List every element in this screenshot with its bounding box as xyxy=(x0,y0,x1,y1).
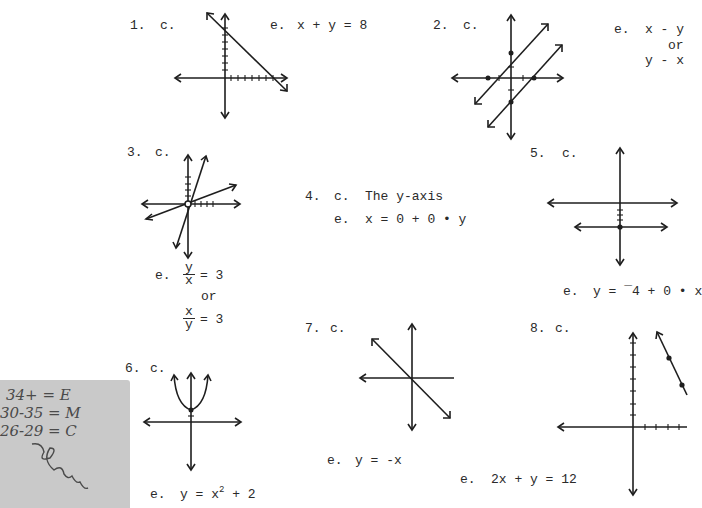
grading-sticky-note: 34+ = E 30-35 = M 26-29 = C xyxy=(0,380,130,508)
problem-3-or: or xyxy=(201,289,217,304)
problem-8-number: 8. xyxy=(530,321,546,336)
problem-3-graph xyxy=(140,150,245,270)
problem-2-equation-2: y - x xyxy=(645,53,684,68)
grade-line-c: 26-29 = C xyxy=(0,422,77,440)
problem-3-fraction-x-over-y: xy xyxy=(183,306,195,331)
problem-7-c-label: c. xyxy=(330,321,346,336)
problem-2-number: 2. xyxy=(433,18,449,33)
grade-line-m: 30-35 = M xyxy=(0,404,81,422)
problem-5-number: 5. xyxy=(530,146,546,161)
problem-4-equation: x = 0 + 0 • y xyxy=(365,212,466,227)
equation-right: + 2 xyxy=(224,487,255,502)
problem-5-e-label: e. xyxy=(563,284,579,299)
problem-6-e-label: e. xyxy=(150,487,166,502)
problem-2-or: or xyxy=(668,38,684,53)
problem-6-graph xyxy=(140,370,245,475)
fraction-denominator: x xyxy=(185,273,193,288)
problem-3-fraction-y-over-x: yx xyxy=(183,262,195,287)
problem-8-e-label: e. xyxy=(460,472,476,487)
problem-3-rhs-2: = 3 xyxy=(200,312,223,327)
problem-1-equation: x + y = 8 xyxy=(297,18,367,33)
problem-4-e-label: e. xyxy=(334,212,350,227)
problem-6-number: 6. xyxy=(125,361,141,376)
equation-left: y = x xyxy=(180,487,219,502)
grade-line-e: 34+ = E xyxy=(6,386,71,404)
problem-7-equation: y = -x xyxy=(355,453,402,468)
equation-exponent: 2 xyxy=(219,485,224,495)
problem-7-number: 7. xyxy=(305,321,321,336)
problem-7-e-label: e. xyxy=(327,453,343,468)
problem-4-number: 4. xyxy=(305,189,321,204)
problem-2-graph xyxy=(450,12,570,142)
problem-6-equation: y = x2 + 2 xyxy=(180,487,256,504)
problem-1-number: 1. xyxy=(130,18,146,33)
problem-3-rhs-1: = 3 xyxy=(200,268,223,283)
problem-1-e-label: e. xyxy=(270,18,286,33)
problem-2-equation-1: x - y xyxy=(645,22,684,37)
problem-5-equation: y = ¯4 + 0 • x xyxy=(593,284,702,299)
signature-scribble xyxy=(28,440,98,502)
problem-3-e-label: e. xyxy=(155,268,171,283)
problem-4-c-label: c. xyxy=(334,189,350,204)
problem-1-c-label: c. xyxy=(160,18,176,33)
fraction-denominator: y xyxy=(185,317,193,332)
problem-4-c-text: The y-axis xyxy=(365,189,443,204)
problem-2-e-label: e. xyxy=(614,22,630,37)
problem-5-graph xyxy=(545,145,685,270)
problem-7-graph xyxy=(358,320,458,435)
problem-8-equation: 2x + y = 12 xyxy=(491,472,577,487)
